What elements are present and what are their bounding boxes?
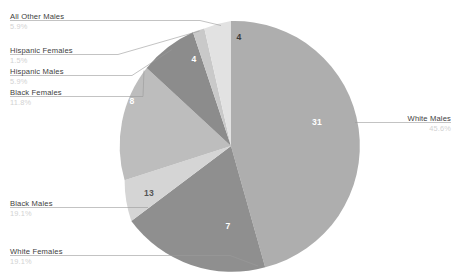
callout-hispanic-males[interactable]: Hispanic Males 5.9%	[10, 66, 64, 88]
callout-category-black-males: Black Males	[10, 198, 53, 209]
callout-category-hispanic-females: Hispanic Females	[10, 45, 73, 56]
callout-black-females[interactable]: Black Females 11.8%	[10, 87, 62, 109]
callout-category-white-females: White Females	[10, 246, 63, 257]
callout-white-males[interactable]: White Males 45.6%	[408, 113, 451, 135]
pie-chart: 31 7 13 8 4 4 All Other Males 5.9% Hispa…	[0, 0, 461, 275]
slice-value-white-males: 31	[312, 117, 322, 127]
callout-category-hispanic-males: Hispanic Males	[10, 66, 64, 77]
callout-percent-black-females: 11.8%	[10, 98, 62, 109]
slice-value-white-females: 7	[226, 221, 231, 231]
callout-category-all-other-males: All Other Males	[10, 11, 64, 22]
callout-percent-black-males: 19.1%	[10, 209, 53, 220]
callout-black-males[interactable]: Black Males 19.1%	[10, 198, 53, 220]
callout-all-other-males[interactable]: All Other Males 5.9%	[10, 11, 64, 33]
slice-value-black-males: 13	[144, 188, 154, 198]
callout-category-white-males: White Males	[408, 113, 451, 124]
callout-percent-all-other-males: 5.9%	[10, 22, 64, 33]
callout-percent-white-males: 45.6%	[408, 124, 451, 135]
slice-value-hispanic-males: 4	[192, 54, 197, 64]
callout-white-females[interactable]: White Females 19.1%	[10, 246, 63, 268]
callout-category-black-females: Black Females	[10, 87, 62, 98]
pie-chart-canvas: 31 7 13 8 4 4	[0, 0, 461, 275]
slice-value-black-females: 8	[130, 96, 135, 106]
callout-hispanic-females[interactable]: Hispanic Females 1.5%	[10, 45, 73, 67]
callout-percent-white-females: 19.1%	[10, 257, 63, 268]
slice-value-all-other-males: 4	[237, 32, 242, 42]
